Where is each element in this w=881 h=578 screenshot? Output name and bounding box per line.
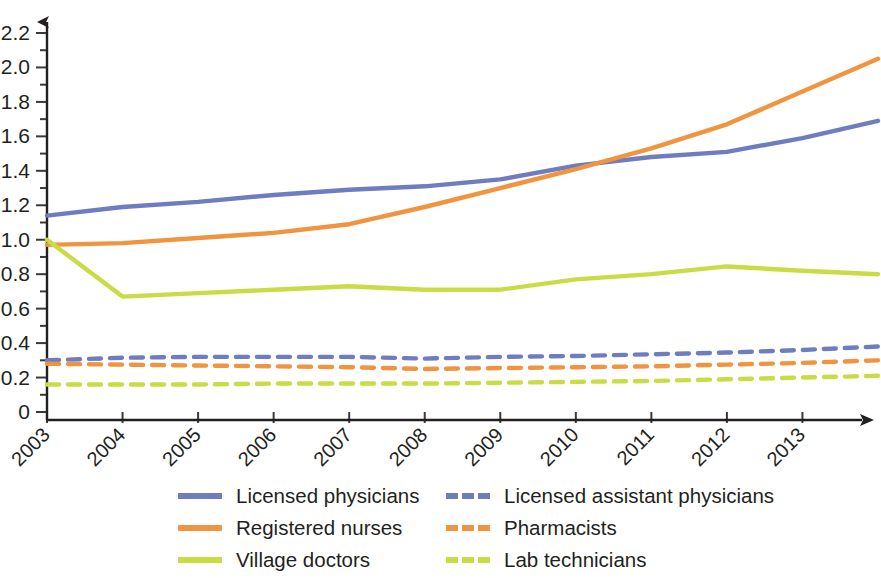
x-tick-label: 2010: [536, 423, 583, 470]
legend-label: Pharmacists: [504, 517, 617, 539]
line-swatch-dashed-green: [446, 557, 490, 563]
series-line-registered-nurses: [47, 59, 878, 245]
x-tick-label: 2013: [762, 423, 809, 470]
legend-label: Licensed physicians: [236, 485, 419, 507]
legend-label: Lab technicians: [504, 549, 646, 571]
x-tick-label: 2007: [309, 423, 356, 470]
y-tick-label: 0.8: [1, 262, 30, 285]
legend-item-pharmacists[interactable]: Pharmacists: [446, 512, 776, 544]
y-tick-label: 2.0: [1, 55, 30, 78]
y-tick-label: 1.2: [1, 193, 30, 216]
x-tick-label: 2003: [7, 423, 54, 470]
y-tick-label: 1.0: [1, 228, 30, 251]
data-series-group: [47, 59, 878, 385]
line-swatch-solid-blue: [178, 493, 222, 499]
y-tick-label: 1.4: [1, 159, 31, 182]
y-tick-label: 1.6: [1, 124, 30, 147]
legend-row: Licensed physiciansLicensed assistant ph…: [178, 480, 778, 512]
x-tick-label: 2011: [612, 423, 658, 469]
series-line-pharmacists: [47, 360, 878, 369]
legend-label: Village doctors: [236, 549, 370, 571]
chart-legend: Licensed physiciansLicensed assistant ph…: [178, 480, 778, 576]
line-chart: 00.20.40.60.81.01.21.41.61.82.02.2 20032…: [0, 0, 881, 578]
legend-label: Registered nurses: [236, 517, 402, 539]
legend-item-licensed-assistant-physicians[interactable]: Licensed assistant physicians: [446, 480, 776, 512]
line-swatch-solid-green: [178, 557, 222, 563]
line-swatch-dashed-orange: [446, 525, 490, 531]
y-axis-labels: 00.20.40.60.81.01.21.41.61.82.02.2: [1, 21, 31, 423]
series-line-village-doctors: [47, 240, 878, 297]
y-tick-label: 1.8: [1, 90, 30, 113]
series-line-licensed-physicians: [47, 121, 878, 216]
series-line-lab-technicians: [47, 376, 878, 385]
legend-item-registered-nurses[interactable]: Registered nurses: [178, 512, 446, 544]
line-swatch-dashed-blue: [446, 493, 490, 499]
y-tick-label: 2.2: [1, 21, 30, 44]
series-line-licensed-assistant-physicians: [47, 347, 878, 361]
y-tick-label: 0.2: [1, 366, 30, 389]
x-tick-label: 2012: [687, 423, 734, 470]
legend-item-licensed-physicians[interactable]: Licensed physicians: [178, 480, 446, 512]
x-tick-label: 2006: [233, 423, 280, 470]
x-axis-labels: 2003200420052006200720082009201020112012…: [7, 423, 809, 470]
legend-row: Registered nursesPharmacists: [178, 512, 778, 544]
y-tick-label: 0.6: [1, 297, 30, 320]
legend-item-village-doctors[interactable]: Village doctors: [178, 544, 446, 576]
x-axis-ticks: [47, 412, 802, 423]
y-axis-ticks: [36, 33, 47, 412]
legend-row: Village doctorsLab technicians: [178, 544, 778, 576]
x-tick-label: 2004: [82, 423, 129, 470]
legend-item-lab-technicians[interactable]: Lab technicians: [446, 544, 776, 576]
x-tick-label: 2005: [158, 423, 205, 470]
x-tick-label: 2008: [385, 423, 432, 470]
legend-label: Licensed assistant physicians: [504, 485, 774, 507]
y-tick-label: 0.4: [1, 331, 31, 354]
x-tick-label: 2009: [460, 423, 507, 470]
line-swatch-solid-orange: [178, 525, 222, 531]
y-tick-label: 0: [18, 400, 30, 423]
